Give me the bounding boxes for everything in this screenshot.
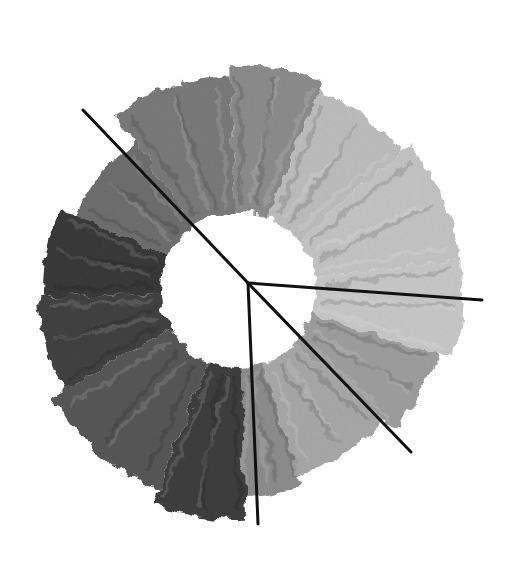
- color-wheel-photo: [0, 0, 514, 562]
